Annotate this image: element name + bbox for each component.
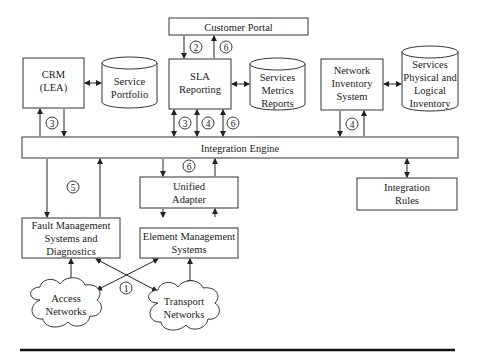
integration-engine-bar: Integration Engine (22, 137, 458, 158)
svg-text:2: 2 (194, 43, 199, 53)
unified-adapter-box: Unified Adapter (140, 177, 238, 208)
step-badge: 4 (346, 118, 358, 130)
inventory-label-3: Logical (414, 85, 446, 96)
svg-text:4: 4 (350, 120, 355, 130)
nis-label-2: Inventory (332, 78, 374, 89)
step-badge: 6 (183, 160, 195, 172)
svg-text:3: 3 (50, 119, 55, 129)
sla-label: SLA (190, 71, 210, 82)
step-badge: 4 (202, 117, 214, 129)
step-badge: 2 (190, 41, 202, 53)
rules-label: Integration (384, 182, 431, 193)
fault-management-box: Fault Management Systems and Diagnostics (22, 218, 120, 258)
fault-label-2: Systems and (45, 233, 99, 244)
transport-label-2: Networks (164, 309, 205, 320)
service-portfolio-database: Service Portfolio (102, 57, 157, 108)
metrics-label: Services (260, 72, 296, 83)
service-portfolio-label: Service (114, 76, 146, 87)
step-badge: 5 (67, 181, 79, 193)
ems-label-2: Systems (171, 244, 206, 255)
step-badge: 1 (120, 282, 132, 294)
access-networks-cloud: Access Networks (31, 278, 102, 327)
step-badge: 6 (220, 41, 232, 53)
svg-text:6: 6 (224, 43, 229, 53)
architecture-diagram: Customer Portal CRM (LEA) Service Portfo… (0, 0, 477, 358)
svg-text:4: 4 (206, 119, 211, 129)
nis-label-3: System (337, 91, 368, 102)
sla-label-2: Reporting (179, 84, 222, 95)
inventory-label: Services (412, 59, 448, 70)
crm-sublabel: (LEA) (40, 82, 68, 94)
element-management-box: Element Management Systems (140, 228, 238, 258)
services-metrics-database: Services Metrics Reports (250, 58, 305, 110)
rules-label-2: Rules (395, 195, 419, 206)
integration-rules-box: Integration Rules (357, 178, 457, 210)
svg-text:6: 6 (187, 162, 192, 172)
fault-label: Fault Management (31, 220, 110, 231)
svg-text:5: 5 (71, 183, 76, 193)
ems-label: Element Management (143, 231, 236, 242)
step-badge: 3 (179, 117, 191, 129)
transport-networks-cloud: Transport Networks (149, 281, 220, 330)
physical-logical-inventory-database: Services Physical and Logical Inventory (402, 46, 458, 111)
inventory-label-4: Inventory (410, 98, 452, 109)
svg-text:3: 3 (183, 119, 188, 129)
crm-label: CRM (42, 69, 66, 80)
metrics-label-3: Reports (261, 98, 294, 109)
fault-label-3: Diagnostics (46, 246, 96, 257)
step-badge: 6 (227, 117, 239, 129)
access-label-2: Networks (46, 306, 87, 317)
inventory-label-2: Physical and (403, 72, 457, 83)
transport-label: Transport (164, 296, 205, 307)
customer-portal-label: Customer Portal (204, 22, 273, 33)
crm-box: CRM (LEA) (23, 58, 84, 108)
svg-text:1: 1 (124, 284, 129, 294)
sla-reporting-box: SLA Reporting (169, 59, 231, 109)
customer-portal-box: Customer Portal (169, 18, 308, 35)
adapter-label-2: Adapter (172, 194, 206, 205)
svg-text:6: 6 (231, 119, 236, 129)
metrics-label-2: Metrics (261, 85, 293, 96)
step-badge: 3 (46, 117, 58, 129)
integration-engine-label: Integration Engine (201, 143, 280, 154)
access-label: Access (51, 293, 81, 304)
adapter-label: Unified (173, 181, 206, 192)
nis-label: Network (334, 65, 371, 76)
network-inventory-box: Network Inventory System (321, 59, 383, 110)
service-portfolio-label-2: Portfolio (111, 89, 148, 100)
